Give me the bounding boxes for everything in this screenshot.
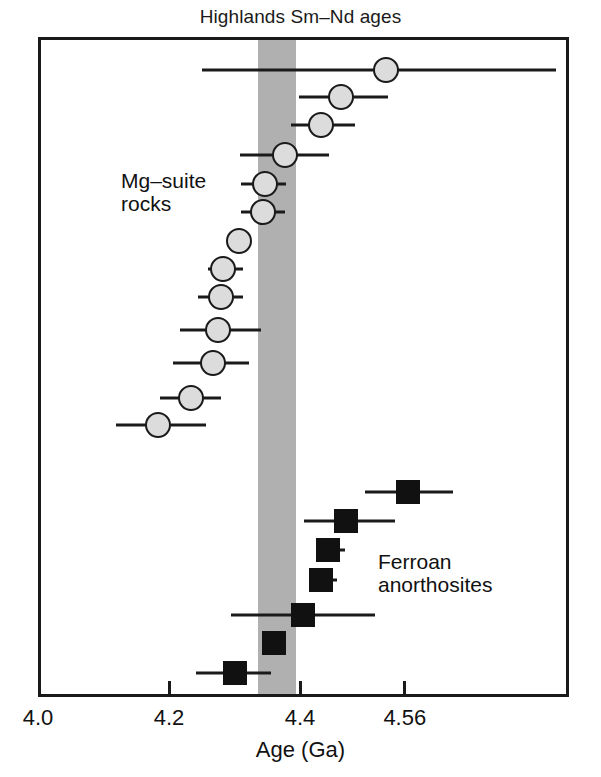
tick-label: 4.56 — [383, 705, 426, 731]
x-axis-label: Age (Ga) — [0, 737, 601, 763]
tick-label: 4.0 — [23, 705, 54, 731]
tick-mark — [299, 681, 302, 697]
tick-label: 4.2 — [154, 705, 185, 731]
tick-mark — [403, 681, 406, 697]
figure-container: Highlands Sm–Nd ages Mg–suite rocks Ferr… — [0, 0, 601, 777]
tick-label: 4.4 — [285, 705, 316, 731]
x-axis-ticks: 4.04.24.44.56 — [0, 0, 601, 777]
tick-mark — [168, 681, 171, 697]
